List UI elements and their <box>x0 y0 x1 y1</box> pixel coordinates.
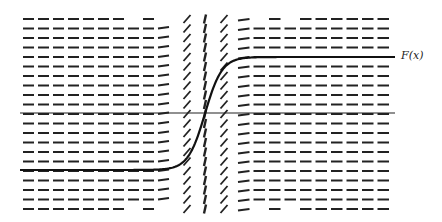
slope-segment <box>204 167 206 176</box>
slope-segment <box>184 53 191 61</box>
slope-segment <box>184 91 191 99</box>
slope-segment <box>204 205 206 214</box>
slope-segment <box>204 186 206 195</box>
slope-segment <box>221 120 228 128</box>
slope-segment <box>221 34 228 42</box>
slope-segment <box>204 53 206 62</box>
slope-segment <box>238 76 250 78</box>
slope-segment <box>184 25 191 33</box>
slope-segment <box>204 43 206 52</box>
slope-segment <box>184 44 191 52</box>
slope-segment <box>238 190 250 192</box>
slope-segment <box>204 129 206 138</box>
slope-segment <box>238 86 250 88</box>
slope-segment <box>184 196 191 204</box>
slope-segment <box>184 15 191 23</box>
slope-segment <box>204 195 206 204</box>
slope-segment <box>221 148 228 156</box>
slope-segment <box>184 139 191 147</box>
slope-segment <box>221 82 228 90</box>
slope-segment <box>158 189 169 191</box>
slope-segment <box>221 129 228 137</box>
slope-segment <box>238 124 250 126</box>
slope-segment <box>221 91 228 99</box>
slope-segment <box>184 34 191 42</box>
slope-segment <box>221 196 228 204</box>
slope-segment <box>158 65 169 67</box>
slope-segment <box>221 25 228 33</box>
slope-segment <box>158 160 169 162</box>
slope-segment <box>184 205 191 213</box>
slope-field-segments <box>23 15 389 214</box>
slope-segment <box>221 44 228 52</box>
slope-segment <box>184 120 191 128</box>
slope-segment <box>238 19 250 21</box>
slope-segment <box>158 46 169 48</box>
slope-segment <box>221 110 228 118</box>
slope-segment <box>221 205 228 213</box>
slope-segment <box>158 84 169 86</box>
slope-segment <box>204 24 206 33</box>
slope-segment <box>221 72 228 80</box>
slope-segment <box>158 103 169 105</box>
slope-segment <box>221 177 228 185</box>
slope-segment <box>238 133 250 135</box>
slope-segment <box>158 141 169 143</box>
slope-segment <box>184 167 191 175</box>
slope-segment <box>204 81 206 90</box>
slope-segment <box>158 56 169 58</box>
slope-segment <box>238 29 250 31</box>
slope-segment <box>184 186 191 194</box>
slope-segment <box>204 157 206 166</box>
slope-segment <box>204 176 206 185</box>
slope-segment <box>158 122 169 124</box>
slope-segment <box>184 63 191 71</box>
slope-segment <box>238 200 250 202</box>
slope-segment <box>158 27 169 29</box>
slope-segment <box>204 72 206 81</box>
slope-segment <box>221 53 228 61</box>
slope-segment <box>221 15 228 23</box>
slope-segment <box>238 162 250 164</box>
curve-label: F(x) <box>401 49 423 62</box>
slope-segment <box>238 105 250 107</box>
slope-segment <box>238 143 250 145</box>
slope-segment <box>204 91 206 100</box>
slope-segment <box>238 67 250 69</box>
slope-segment <box>204 15 206 24</box>
slope-segment <box>204 62 206 71</box>
slope-segment <box>238 152 250 154</box>
slope-segment <box>204 138 206 147</box>
slope-segment <box>238 209 250 211</box>
slope-segment <box>221 186 228 194</box>
slope-segment <box>204 34 206 43</box>
slope-segment <box>158 94 169 96</box>
slope-segment <box>238 171 250 173</box>
slope-segment <box>184 101 191 109</box>
slope-segment <box>158 132 169 134</box>
slope-segment <box>158 198 169 200</box>
slope-segment <box>238 95 250 97</box>
slope-field-diagram <box>0 0 442 222</box>
slope-segment <box>184 177 191 185</box>
slope-segment <box>238 114 250 116</box>
slope-segment <box>184 110 191 118</box>
slope-segment <box>184 129 191 137</box>
slope-segment <box>204 119 206 128</box>
slope-segment <box>158 37 169 39</box>
slope-segment <box>238 38 250 40</box>
slope-segment <box>204 148 206 157</box>
slope-segment <box>238 48 250 50</box>
slope-segment <box>158 75 169 77</box>
slope-segment <box>221 139 228 147</box>
slope-segment <box>221 101 228 109</box>
slope-segment <box>158 179 169 181</box>
slope-segment <box>158 151 169 153</box>
slope-segment <box>184 72 191 80</box>
slope-segment <box>238 181 250 183</box>
slope-segment <box>221 158 228 166</box>
slope-segment <box>221 167 228 175</box>
slope-segment <box>184 82 191 90</box>
